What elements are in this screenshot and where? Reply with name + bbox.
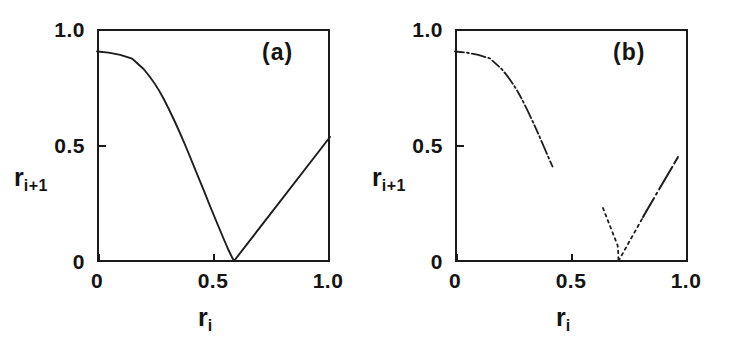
v-right-branch-fragment-b	[619, 216, 645, 262]
ascending-branch-a	[234, 137, 330, 261]
return-map-curve-a	[0, 0, 366, 355]
descending-branch-fragment-b	[455, 52, 553, 167]
descending-branch-a	[97, 52, 234, 262]
return-map-curve-b	[365, 0, 731, 355]
panel-b: 1.0 0.5 0 0 0.5 1.0 ri+1 ri (b)	[365, 0, 731, 355]
figure-canvas: 1.0 0.5 0 0 0.5 1.0 ri+1 ri (a) 1.0 0.5	[0, 0, 731, 355]
v-left-branch-fragment-b	[603, 208, 619, 261]
v-right-branch-upper-fragment-b	[643, 157, 678, 217]
panel-a: 1.0 0.5 0 0 0.5 1.0 ri+1 ri (a)	[0, 0, 366, 355]
